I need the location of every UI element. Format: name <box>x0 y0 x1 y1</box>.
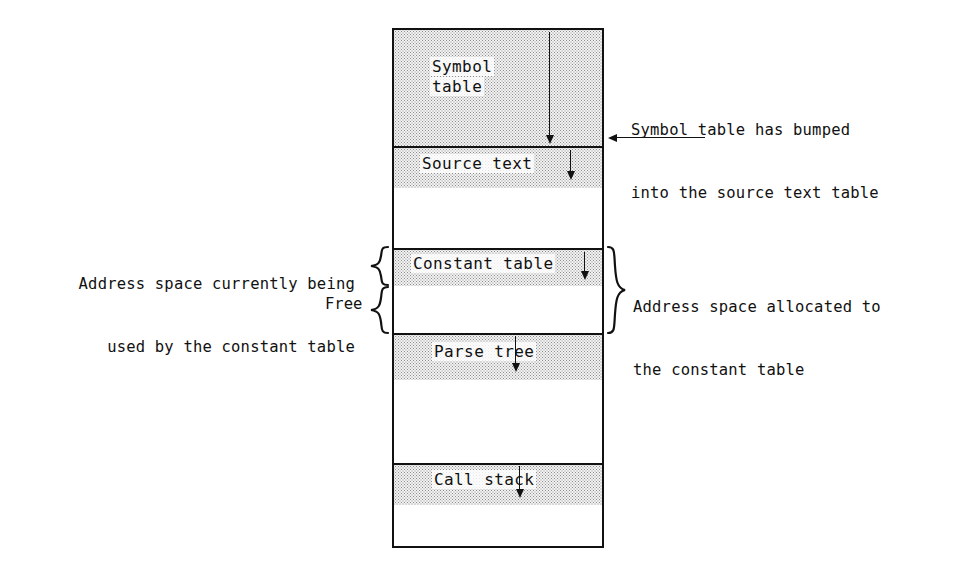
label-call-stack: Call stack <box>432 470 536 489</box>
diagram-canvas: Symbol table Source text Constant table … <box>0 0 972 575</box>
annotation-constant-used-line1: Address space currently being <box>55 274 355 295</box>
annotation-constant-allocated-line2: the constant table <box>633 360 881 381</box>
growth-arrow-source-text <box>570 150 571 172</box>
label-constant-table: Constant table <box>411 254 555 273</box>
brace-constant-table-used <box>368 246 390 286</box>
growth-arrow-parse-tree <box>515 336 516 364</box>
callout-arrow-symbol-table <box>617 137 705 138</box>
brace-free-space <box>368 286 390 334</box>
region-symbol-table <box>394 30 602 146</box>
address-space-box: Symbol table Source text Constant table … <box>392 28 604 548</box>
label-source-text: Source text <box>420 154 534 173</box>
brace-constant-table-allocated <box>606 246 628 334</box>
growth-arrow-constant-table <box>584 252 585 272</box>
label-symbol-table-line1: Symbol <box>430 57 494 76</box>
annotation-symbol-collision-line2: into the source text table <box>631 183 879 204</box>
label-parse-tree: Parse tree <box>432 342 536 361</box>
growth-arrow-symbol-table <box>549 32 550 136</box>
annotation-constant-allocated-line1: Address space allocated to <box>633 297 881 318</box>
annotation-constant-table-used: Address space currently being used by th… <box>55 232 355 400</box>
annotation-symbol-table-collision: Symbol table has bumped into the source … <box>631 78 879 246</box>
annotation-constant-used-line2: used by the constant table <box>55 337 355 358</box>
label-free-space: Free <box>325 295 362 314</box>
label-symbol-table-line2: table <box>430 77 484 96</box>
growth-arrow-call-stack <box>519 466 520 490</box>
annotation-constant-table-allocated: Address space allocated to the constant … <box>633 255 881 423</box>
